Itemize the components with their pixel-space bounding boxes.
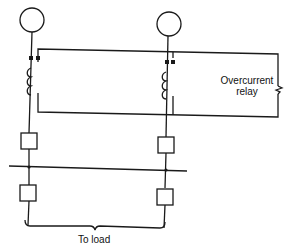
load-brace (25, 220, 165, 230)
breaker-left-upper (21, 133, 37, 149)
bus-node-left (27, 165, 30, 168)
generator-left (20, 8, 44, 32)
ct-terminal-left-b (36, 56, 40, 60)
generator-right (157, 12, 181, 36)
ct-terminal-left-a (29, 56, 33, 60)
ct-terminal-right-a (165, 60, 169, 64)
bus-bar (9, 166, 187, 171)
feeder-left (29, 32, 32, 133)
ct-coil-right (162, 72, 166, 99)
relay-label-line2: relay (219, 86, 275, 97)
breaker-left-lower (20, 185, 36, 201)
load-label: To load (78, 234, 110, 245)
relay-label: Overcurrent relay (219, 75, 275, 97)
relay-break-icon (276, 86, 282, 94)
breaker-right-upper (158, 137, 174, 153)
breaker-right-lower (157, 189, 173, 205)
circuit-diagram (0, 0, 287, 251)
bus-node-right (164, 168, 167, 171)
relay-label-line1: Overcurrent (219, 75, 275, 86)
ct-terminal-right-b (171, 60, 175, 64)
